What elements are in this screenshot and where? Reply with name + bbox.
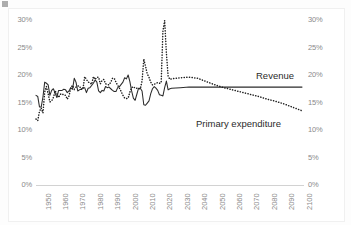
y-tick-right-15%: 15% [308,99,322,107]
x-tick-2030: 2030 [184,193,192,210]
x-tick-1990: 1990 [114,193,122,210]
x-tick-2060: 2060 [236,193,244,210]
y-tick-right-5%: 5% [308,154,318,162]
plot-area [36,20,302,185]
x-tick-1950: 1950 [45,193,53,210]
y-tick-left-0%: 0% [6,181,32,189]
x-tick-2040: 2040 [201,193,209,210]
chart-container: 0%5%10%15%20%25%30% 0%5%10%15%20%25%30% … [0,0,351,225]
y-tick-right-0%: 0% [308,181,318,189]
y-tick-left-15%: 15% [6,99,32,107]
x-tick-1980: 1980 [97,193,105,210]
x-axis-baseline [36,185,304,186]
x-tick-2050: 2050 [219,193,227,210]
y-tick-left-20%: 20% [6,71,32,79]
y-tick-left-10%: 10% [6,126,32,134]
y-tick-right-30%: 30% [308,16,322,24]
y-axis-right: 0%5%10%15%20%25%30% [308,0,344,225]
x-tick-2080: 2080 [271,193,279,210]
x-axis: 1950196019701980199020002010202020302040… [36,188,304,224]
y-tick-left-30%: 30% [6,16,32,24]
x-tick-2090: 2090 [288,193,296,210]
x-tick-2000: 2000 [132,193,140,210]
y-tick-right-20%: 20% [308,71,322,79]
y-tick-left-5%: 5% [6,154,32,162]
series-lines [36,20,302,185]
y-tick-right-25%: 25% [308,44,322,52]
series-label-revenue: Revenue [256,70,294,81]
x-tick-2020: 2020 [166,193,174,210]
x-tick-1970: 1970 [79,193,87,210]
x-tick-1960: 1960 [62,193,70,210]
y-tick-left-25%: 25% [6,44,32,52]
x-tick-2100: 2100 [306,193,314,210]
y-axis-left: 0%5%10%15%20%25%30% [6,0,32,225]
x-tick-2010: 2010 [149,193,157,210]
y-tick-right-10%: 10% [308,126,322,134]
series-label-primary-expenditure: Primary expenditure [196,118,281,129]
x-tick-2070: 2070 [253,193,261,210]
